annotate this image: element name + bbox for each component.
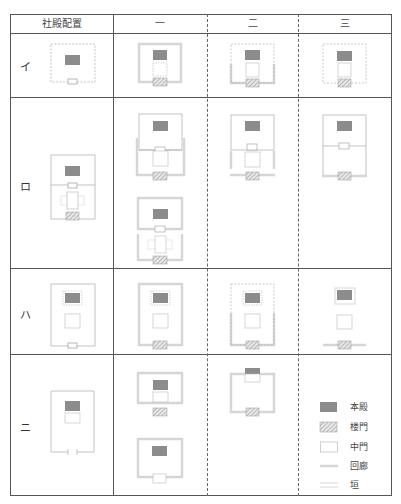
honden-swatch-icon	[320, 401, 340, 413]
legend-item-kaki: 垣	[320, 478, 400, 492]
legend-item-honden: 本殿	[320, 400, 400, 414]
legend-label-kairo: 回廊	[350, 459, 368, 473]
legend-label-honden: 本殿	[350, 400, 368, 414]
kairo-line-icon	[320, 460, 340, 472]
legend-item-chumon: 中門	[320, 440, 400, 454]
kaki-line-icon	[320, 479, 340, 491]
romon-swatch-icon	[320, 421, 340, 433]
legend-label-romon: 楼門	[350, 420, 368, 434]
chumon-swatch-icon	[320, 441, 340, 453]
legend-item-romon: 楼門	[320, 420, 400, 434]
legend-item-kairo: 回廊	[320, 459, 400, 473]
legend-label-kaki: 垣	[350, 478, 359, 492]
legend-label-chumon: 中門	[350, 440, 368, 454]
